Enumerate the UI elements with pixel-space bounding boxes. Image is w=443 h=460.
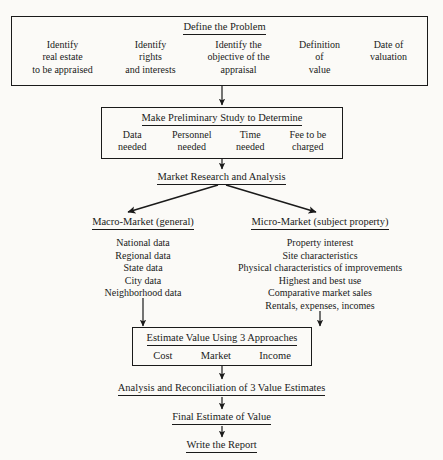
define-problem-header-wrap: Define the Problem bbox=[12, 20, 427, 35]
final-estimate-label: Final Estimate of Value bbox=[172, 410, 271, 425]
define-problem-columns: Identify real estate to be appraised Ide… bbox=[12, 39, 427, 76]
micro-market-header-wrap: Micro-Market (subject property) bbox=[205, 215, 435, 230]
list-item: Property interest bbox=[205, 237, 435, 250]
preliminary-study-columns: Data needed Personnel needed Time needed… bbox=[102, 129, 342, 154]
preliminary-study-column: Personnel needed bbox=[161, 129, 223, 154]
approach-market: Market bbox=[201, 349, 231, 362]
preliminary-study-box: Make Preliminary Study to Determine Data… bbox=[101, 107, 343, 159]
define-problem-column: Identify rights and interests bbox=[111, 39, 191, 76]
appraisal-process-flowchart: Define the Problem Identify real estate … bbox=[0, 0, 443, 460]
define-problem-column: Identify real estate to be appraised bbox=[18, 39, 108, 76]
list-item: Site characteristics bbox=[205, 250, 435, 263]
list-item: Physical characteristics of improvements bbox=[205, 262, 435, 275]
preliminary-study-column: Time needed bbox=[225, 129, 275, 154]
micro-market-header: Micro-Market (subject property) bbox=[251, 215, 388, 230]
final-estimate-label-wrap: Final Estimate of Value bbox=[0, 410, 443, 425]
estimate-value-box: Estimate Value Using 3 Approaches Cost M… bbox=[132, 327, 312, 366]
approach-cost: Cost bbox=[153, 349, 172, 362]
estimate-value-header-wrap: Estimate Value Using 3 Approaches bbox=[133, 331, 311, 346]
micro-market-list: Property interest Site characteristics P… bbox=[205, 237, 435, 313]
approach-income: Income bbox=[259, 349, 291, 362]
arrow-research-to-micro bbox=[226, 185, 316, 212]
estimate-value-approaches: Cost Market Income bbox=[139, 349, 305, 362]
define-problem-column: Date of valuation bbox=[356, 39, 422, 64]
define-problem-column: Definition of value bbox=[287, 39, 353, 76]
define-problem-header: Define the Problem bbox=[183, 20, 265, 35]
list-item: Comparative market sales bbox=[205, 287, 435, 300]
preliminary-study-header: Make Preliminary Study to Determine bbox=[142, 111, 303, 126]
list-item: Rentals, expenses, incomes bbox=[205, 300, 435, 313]
define-problem-column: Identify the objective of the appraisal bbox=[194, 39, 284, 76]
analysis-reconciliation-label: Analysis and Reconciliation of 3 Value E… bbox=[118, 381, 325, 396]
write-report-label-wrap: Write the Report bbox=[0, 438, 443, 453]
macro-market-header: Macro-Market (general) bbox=[92, 215, 194, 230]
write-report-label: Write the Report bbox=[186, 438, 256, 453]
preliminary-study-column: Fee to be charged bbox=[278, 129, 338, 154]
analysis-reconciliation-label-wrap: Analysis and Reconciliation of 3 Value E… bbox=[0, 381, 443, 396]
estimate-value-header: Estimate Value Using 3 Approaches bbox=[147, 331, 298, 346]
preliminary-study-column: Data needed bbox=[106, 129, 158, 154]
market-research-label-wrap: Market Research and Analysis bbox=[0, 170, 443, 185]
market-research-label: Market Research and Analysis bbox=[157, 170, 285, 185]
list-item: Highest and best use bbox=[205, 275, 435, 288]
arrow-research-to-macro bbox=[128, 185, 218, 212]
define-problem-box: Define the Problem Identify real estate … bbox=[11, 16, 428, 86]
preliminary-study-header-wrap: Make Preliminary Study to Determine bbox=[102, 111, 342, 126]
